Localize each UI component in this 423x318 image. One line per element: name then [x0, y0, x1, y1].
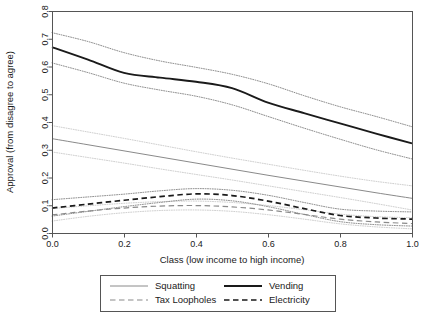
chart-plot-area: 0.00.20.40.60.81.0 0.00.10.20.30.40.50.6… — [0, 0, 423, 318]
confidence-band-tax-loopholes — [52, 210, 412, 229]
x-axis-title: Class (low income to high income) — [160, 254, 305, 265]
series-line-tax-loopholes — [52, 205, 412, 223]
x-tick-label: 1.0 — [406, 239, 419, 249]
x-tick-label: 0.4 — [190, 239, 203, 249]
legend-label: Tax Loopholes — [155, 294, 217, 305]
y-tick-label: 0.7 — [40, 33, 50, 46]
x-tick-label: 0.2 — [118, 239, 131, 249]
y-tick-label: 0.8 — [40, 5, 50, 18]
confidence-interval-bands — [52, 33, 412, 229]
confidence-band-squatting — [52, 152, 412, 210]
legend-label: Squatting — [155, 280, 195, 291]
y-tick-label: 0.1 — [40, 199, 50, 212]
series-line-vending — [52, 47, 412, 143]
confidence-band-vending — [52, 63, 412, 159]
y-tick-label: 0.5 — [40, 88, 50, 101]
chart-legend: SquattingVendingTax LoopholesElectricity — [101, 276, 336, 312]
y-tick-label: 0.0 — [40, 227, 50, 240]
confidence-band-electricity — [52, 199, 412, 226]
y-tick-label: 0.2 — [40, 172, 50, 185]
x-tick-label: 0.8 — [334, 239, 347, 249]
legend-label: Electricity — [269, 294, 310, 305]
x-axis-ticks-group: 0.00.20.40.60.81.0 — [46, 234, 419, 250]
y-tick-label: 0.6 — [40, 61, 50, 74]
legend-label: Vending — [269, 280, 303, 291]
series-line-squatting — [52, 139, 412, 199]
y-tick-label: 0.3 — [40, 144, 50, 157]
confidence-band-squatting — [52, 126, 412, 186]
confidence-band-vending — [52, 33, 412, 127]
y-tick-label: 0.4 — [40, 116, 50, 129]
y-axis-ticks-group: 0.00.10.20.30.40.50.60.70.8 — [40, 5, 52, 240]
x-tick-label: 0.6 — [262, 239, 275, 249]
y-axis-title: Approval (from disagree to agree) — [4, 51, 15, 193]
chart-figure: 0.00.20.40.60.81.0 0.00.10.20.30.40.50.6… — [0, 0, 423, 318]
